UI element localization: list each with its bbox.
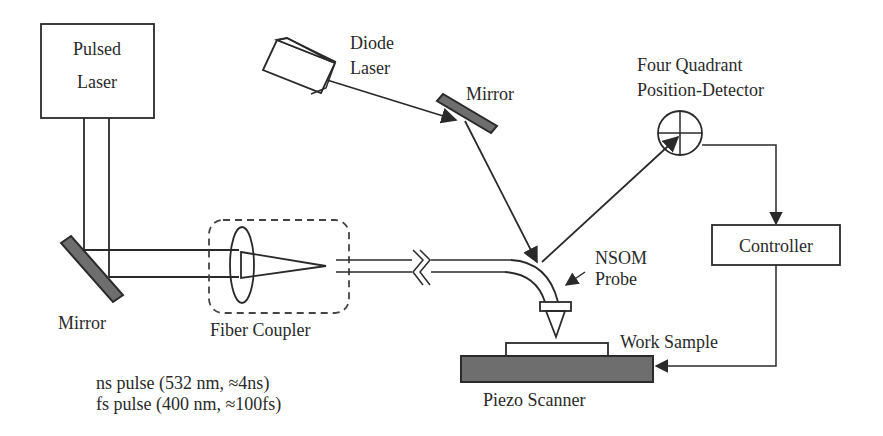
reflected-beam-to-probe xyxy=(465,121,537,262)
controller-label: Controller xyxy=(739,236,813,256)
beam-to-detector xyxy=(542,137,678,262)
pulse-notes: ns pulse (532 nm, ≈4ns) fs pulse (400 nm… xyxy=(96,373,281,415)
detector-label-2: Position-Detector xyxy=(637,80,764,100)
pulsed-beam-horizontal xyxy=(84,250,239,277)
pulse-note-ns: ns pulse (532 nm, ≈4ns) xyxy=(96,373,269,394)
nsom-probe: NSOM Probe xyxy=(540,248,647,337)
detector-to-controller xyxy=(702,145,776,224)
fiber-coupler-label: Fiber Coupler xyxy=(210,320,311,340)
piezo-scanner-label: Piezo Scanner xyxy=(483,390,585,410)
piezo-scanner: Piezo Scanner xyxy=(461,356,653,410)
nsom-probe-label-2: Probe xyxy=(595,269,637,289)
pulsed-laser: Pulsed Laser xyxy=(41,24,154,118)
work-sample: Work Sample xyxy=(506,332,718,356)
controller: Controller xyxy=(712,225,840,265)
quadrant-detector: Four Quadrant Position-Detector xyxy=(637,55,764,155)
work-sample-label: Work Sample xyxy=(620,332,718,352)
nsom-probe-label-1: NSOM xyxy=(595,248,647,268)
mirror-left-label: Mirror xyxy=(58,313,106,333)
pulsed-laser-label-2: Laser xyxy=(77,72,117,92)
pulse-note-fs: fs pulse (400 nm, ≈100fs) xyxy=(96,394,281,415)
fiber-coupler: Fiber Coupler xyxy=(209,220,349,340)
mirror-top: Mirror xyxy=(437,84,514,133)
mirror-top-label: Mirror xyxy=(466,84,514,104)
nsom-setup-diagram: Pulsed Laser Mirror Fiber Coupler xyxy=(0,0,883,436)
diode-laser-label-2: Laser xyxy=(350,58,390,78)
detector-label-1: Four Quadrant xyxy=(637,55,742,75)
diode-laser-label-1: Diode xyxy=(350,33,394,53)
pulsed-beam-vertical xyxy=(84,118,109,277)
optical-fiber xyxy=(336,250,558,302)
diode-laser: Diode Laser xyxy=(263,33,394,94)
pulsed-laser-label-1: Pulsed xyxy=(73,39,121,59)
